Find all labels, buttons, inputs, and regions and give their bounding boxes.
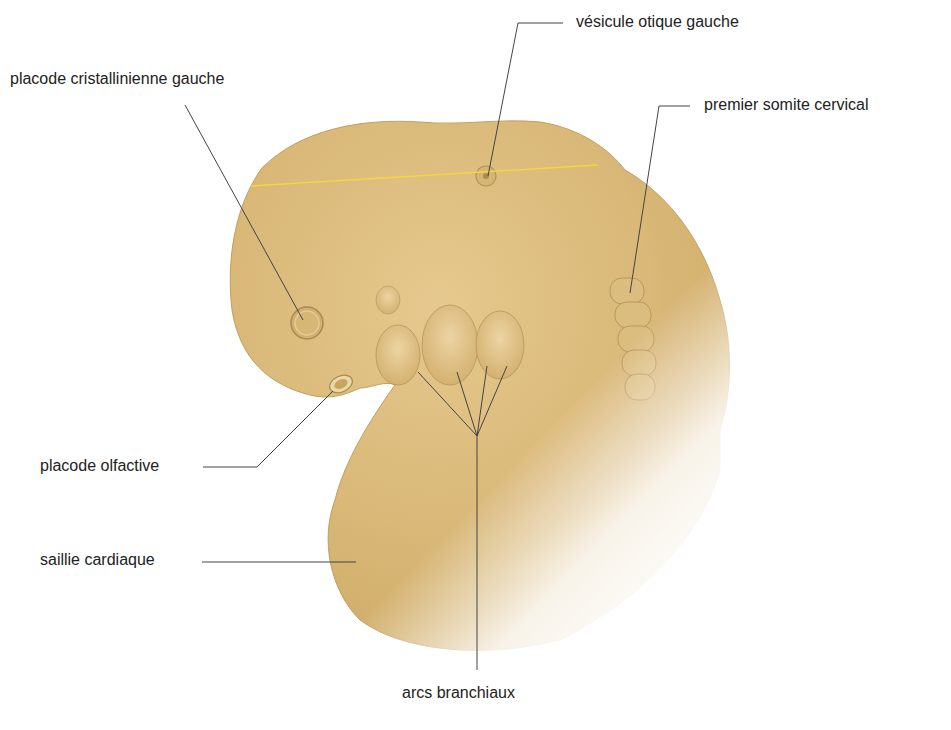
embryo-body bbox=[230, 120, 760, 680]
label-placode-olfactive: placode olfactive bbox=[40, 457, 159, 475]
label-placode-cristallinienne: placode cristallinienne gauche bbox=[10, 70, 224, 88]
label-vesicule-otique: vésicule otique gauche bbox=[576, 13, 739, 31]
embryo-diagram: placode cristallinienne gauche vésicule … bbox=[0, 0, 951, 730]
label-saillie-cardiaque: saillie cardiaque bbox=[40, 551, 155, 569]
fade-overlay bbox=[300, 120, 760, 680]
label-arcs-branchiaux: arcs branchiaux bbox=[402, 684, 515, 702]
label-premier-somite: premier somite cervical bbox=[704, 96, 868, 114]
